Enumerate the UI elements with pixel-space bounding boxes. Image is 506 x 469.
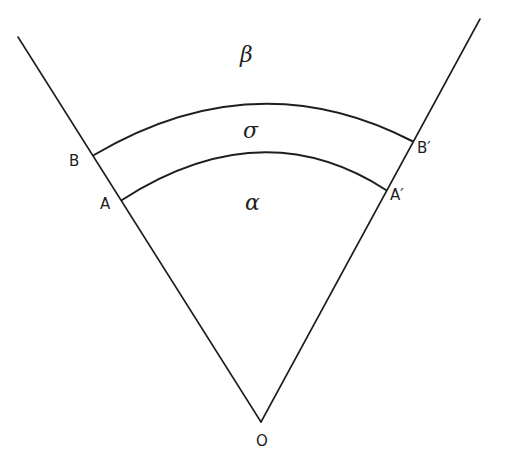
- label-point-a-prime: A′: [390, 186, 404, 204]
- label-point-b-prime: B′: [417, 139, 431, 157]
- label-point-a: A: [100, 195, 111, 213]
- label-point-b: B: [69, 152, 79, 170]
- left-radial-line: [18, 37, 261, 422]
- label-region-sigma: σ: [243, 118, 259, 143]
- sector-diagram: B A B′ A′ O β σ α: [0, 0, 506, 469]
- label-region-alpha: α: [245, 190, 260, 215]
- label-point-o: O: [256, 432, 268, 450]
- label-region-beta: β: [239, 42, 253, 67]
- right-radial-line: [261, 19, 480, 422]
